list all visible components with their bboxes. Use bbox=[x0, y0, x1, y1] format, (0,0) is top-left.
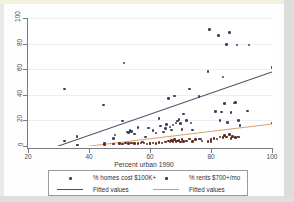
data-point-homes bbox=[114, 134, 117, 137]
x-axis-title: Percent urban 1990 bbox=[4, 161, 284, 168]
legend-line-rents-icon bbox=[153, 189, 179, 190]
data-point-homes bbox=[167, 97, 170, 100]
data-point-rents bbox=[152, 142, 155, 145]
data-point-homes bbox=[63, 88, 66, 91]
data-point-homes bbox=[236, 44, 239, 47]
data-point-homes bbox=[185, 119, 188, 122]
data-point-rents bbox=[112, 143, 115, 146]
legend-row-fitlines: Fitted values Fitted values bbox=[49, 184, 249, 195]
data-point-homes bbox=[239, 124, 242, 127]
data-point-homes bbox=[198, 95, 201, 98]
legend-row-markers: % homes cost $100K+ % rents $700+/mo bbox=[49, 173, 249, 184]
y-tick bbox=[23, 69, 27, 70]
y-tick-label: 20 bbox=[3, 115, 23, 122]
data-point-rents bbox=[213, 137, 216, 140]
data-point-homes bbox=[230, 111, 233, 114]
y-tick bbox=[23, 44, 27, 45]
data-point-homes bbox=[207, 70, 210, 73]
data-point-homes bbox=[223, 102, 226, 105]
data-point-rents bbox=[201, 140, 204, 143]
data-point-rents bbox=[63, 140, 66, 143]
legend-label-fitted-rents: Fitted values bbox=[189, 186, 225, 193]
y-tick bbox=[23, 120, 27, 121]
data-point-homes bbox=[234, 101, 237, 104]
x-tick-label: 40 bbox=[76, 153, 102, 160]
data-point-rents bbox=[133, 142, 136, 145]
x-tick-label: 80 bbox=[198, 153, 224, 160]
y-tick-label: 0 bbox=[3, 141, 23, 148]
data-point-homes bbox=[175, 122, 178, 125]
x-tick-label: 100 bbox=[259, 153, 285, 160]
scan-bottom-margin bbox=[0, 196, 294, 202]
legend-label-fitted-homes: Fitted values bbox=[93, 186, 129, 193]
y-tick bbox=[23, 18, 27, 19]
gridline bbox=[28, 120, 272, 121]
legend-marker-homes-icon bbox=[69, 177, 72, 180]
data-point-homes bbox=[208, 28, 211, 31]
data-point-homes bbox=[170, 129, 173, 132]
y-tick bbox=[23, 95, 27, 96]
legend-line-homes-icon bbox=[57, 189, 83, 190]
data-point-homes bbox=[76, 135, 79, 138]
data-point-homes bbox=[220, 111, 223, 114]
data-point-homes bbox=[123, 62, 126, 65]
gridline bbox=[28, 18, 272, 19]
gridline bbox=[28, 95, 272, 96]
legend-label-homes: % homes cost $100K+ bbox=[93, 174, 156, 181]
data-point-homes bbox=[225, 43, 228, 46]
data-point-rents bbox=[155, 142, 158, 145]
data-point-rents bbox=[149, 142, 152, 145]
data-point-homes bbox=[162, 131, 165, 134]
data-point-rents bbox=[237, 136, 240, 139]
data-point-homes bbox=[237, 119, 240, 122]
chart-figure: 02040608010020406080100 Percent urban 19… bbox=[4, 4, 284, 196]
data-point-homes bbox=[222, 76, 225, 79]
gridline bbox=[28, 69, 272, 70]
data-point-rents bbox=[194, 138, 197, 141]
data-point-rents bbox=[76, 144, 79, 146]
data-point-homes bbox=[228, 31, 231, 34]
data-point-rents bbox=[216, 138, 219, 141]
data-point-rents bbox=[146, 143, 149, 146]
y-tick-label: 80 bbox=[3, 39, 23, 46]
data-point-rents bbox=[207, 140, 210, 143]
data-point-homes bbox=[112, 137, 115, 140]
data-point-rents bbox=[225, 136, 228, 139]
data-point-homes bbox=[164, 127, 167, 130]
data-point-homes bbox=[190, 122, 193, 125]
data-point-homes bbox=[246, 110, 249, 113]
y-tick-label: 40 bbox=[3, 90, 23, 97]
data-point-homes bbox=[159, 125, 162, 128]
data-point-homes bbox=[182, 113, 185, 116]
data-point-rents bbox=[271, 122, 272, 125]
data-point-homes bbox=[158, 117, 161, 120]
chart-legend: % homes cost $100K+ % rents $700+/mo Fit… bbox=[48, 170, 248, 196]
data-point-rents bbox=[137, 142, 140, 145]
scan-right-margin bbox=[284, 0, 294, 202]
x-tick-label: 60 bbox=[137, 153, 163, 160]
data-point-rents bbox=[185, 140, 188, 143]
scatter-plot-area bbox=[28, 18, 272, 146]
data-point-homes bbox=[137, 126, 140, 129]
legend-label-rents: % rents $700+/mo bbox=[189, 174, 240, 181]
data-point-homes bbox=[179, 122, 182, 125]
data-point-homes bbox=[144, 136, 147, 139]
data-point-homes bbox=[226, 121, 229, 124]
data-point-homes bbox=[173, 95, 176, 98]
y-axis-line bbox=[27, 18, 28, 148]
data-point-homes bbox=[181, 128, 184, 131]
data-point-homes bbox=[217, 34, 220, 37]
data-point-homes bbox=[214, 110, 217, 113]
data-point-homes bbox=[102, 104, 105, 107]
y-tick-label: 60 bbox=[3, 64, 23, 71]
data-point-homes bbox=[147, 127, 150, 130]
screenshot-page: 02040608010020406080100 Percent urban 19… bbox=[0, 0, 294, 202]
data-point-homes bbox=[172, 124, 175, 127]
data-point-rents bbox=[140, 142, 143, 145]
data-point-homes bbox=[152, 129, 155, 132]
fitted-line-0 bbox=[28, 72, 272, 146]
legend-marker-rents-icon bbox=[165, 177, 168, 180]
data-point-rents bbox=[143, 142, 146, 145]
data-point-homes bbox=[133, 133, 136, 136]
data-point-homes bbox=[188, 88, 191, 91]
